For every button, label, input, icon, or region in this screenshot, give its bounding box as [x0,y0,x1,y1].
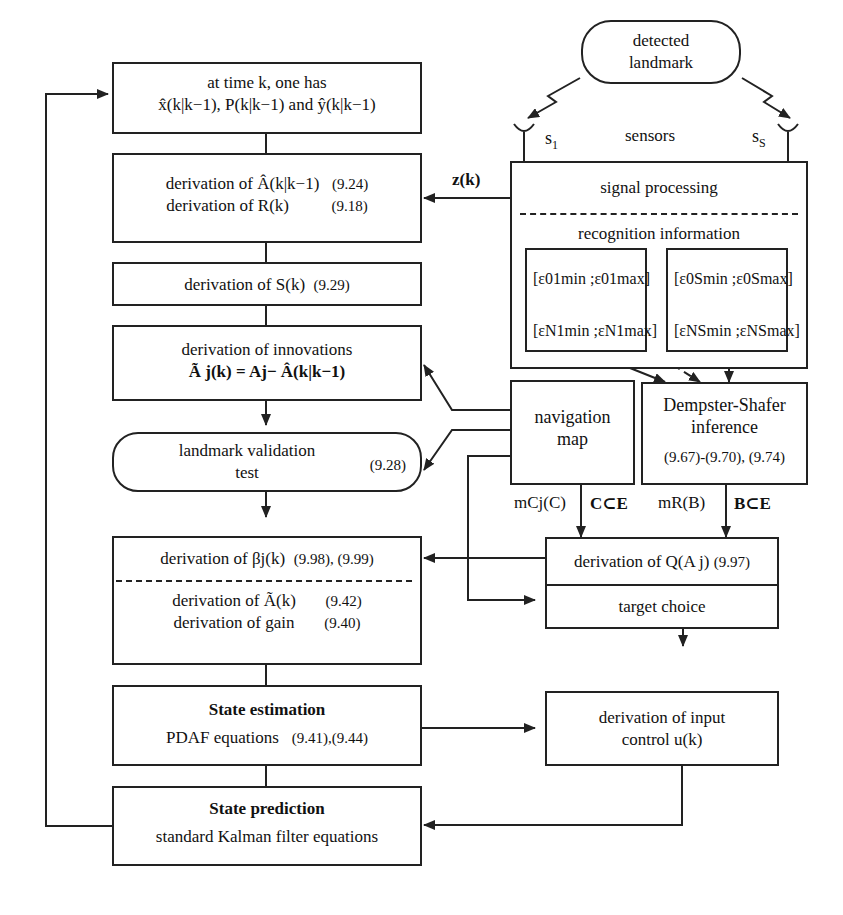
state-estimation-box: State estimation PDAF equations (9.41),(… [112,685,422,766]
navigation-map-box: navigation map [510,380,635,485]
landmark-validation-test: landmark validation test (9.28) [112,432,422,492]
beta-derivation-box: derivation of βj(k) (9.98), (9.99) deriv… [112,536,422,665]
divider-dashed [116,580,412,582]
detected-landmark: detected landmark [581,20,741,84]
epsilon-box-sensor-s: [ε0Smin ;ε0Smax] [εNSmin ;εNSmax] [666,248,788,352]
sensor-s1-label: s1 [545,128,558,153]
sensor-ss-label: sS [752,126,766,151]
epsilon-box-sensor-1: [ε01min ;ε01max] [εN1min ;εN1max] [525,248,647,352]
mass-c-label: mCj(C) [514,493,566,513]
derivation-s-box: derivation of S(k) (9.29) [112,262,422,306]
dempster-shafer-box: Dempster-Shafer inference (9.67)-(9.70),… [641,382,808,485]
mass-r-label: mR(B) [658,493,705,513]
divider-dashed [520,213,798,215]
zk-label: z(k) [452,170,480,190]
sensors-label: sensors [625,126,675,146]
state-prediction-box: State prediction standard Kalman filter … [112,786,422,866]
target-choice-box: target choice [545,584,779,629]
innovations-box: derivation of innovations Ã j(k) = Aj− Â… [112,325,422,401]
b-subset-e-label: B⊂E [734,493,771,514]
initial-state-box: at time k, one has x̂(k|k−1), P(k|k−1) a… [112,62,422,134]
derivation-a-r-box: derivation of Â(k|k−1) (9.24) derivation… [112,153,422,243]
input-control-box: derivation of input control u(k) [545,691,779,766]
c-subset-e-label: C⊂E [590,493,628,514]
derivation-q-box: derivation of Q(A j) (9.97) [545,537,779,586]
